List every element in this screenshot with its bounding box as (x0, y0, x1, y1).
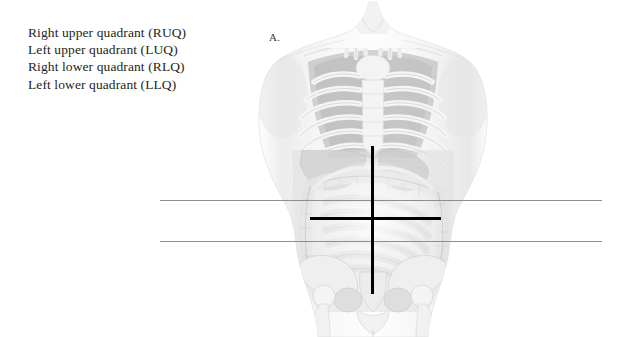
median-plane-line (371, 146, 374, 294)
intertubercular-plane-guide-line (160, 241, 602, 242)
legend-line-rlq: Right lower quadrant (RLQ) (28, 58, 258, 75)
quadrant-legend: Right upper quadrant (RUQ) Left upper qu… (28, 24, 258, 93)
subcostal-plane-guide-line (160, 200, 602, 201)
transumbilical-plane-line (310, 217, 441, 220)
legend-line-luq: Left upper quadrant (LUQ) (28, 41, 258, 58)
legend-line-ruq: Right upper quadrant (RUQ) (28, 24, 258, 41)
neck-shading (352, 0, 394, 34)
abdominal-quadrants-figure: Right upper quadrant (RUQ) Left upper qu… (0, 0, 631, 337)
legend-line-llq: Left lower quadrant (LLQ) (28, 76, 258, 93)
